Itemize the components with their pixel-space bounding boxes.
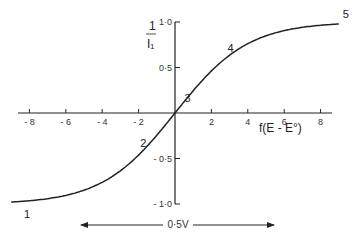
point-label-4: 4: [228, 42, 234, 54]
point-label-5: 5: [343, 8, 349, 20]
x-tick-label: 4: [245, 117, 250, 127]
y-axis-label-denominator: I₁: [147, 37, 154, 51]
y-tick-label: - 0·5: [153, 154, 172, 164]
x-tick-label: - 2: [133, 117, 144, 127]
y-tick-label: 0·5: [159, 63, 172, 73]
x-tick-label: - 4: [97, 117, 108, 127]
voltage-span-label: 0·5V: [167, 219, 188, 230]
x-tick-label: - 8: [24, 117, 35, 127]
x-tick-label: 2: [209, 117, 214, 127]
y-axis-label-numerator: 1: [149, 19, 156, 33]
point-label-1: 1: [24, 208, 30, 220]
point-labels: 12345: [24, 8, 349, 220]
y-tick-label: 1·0: [159, 17, 172, 27]
x-tick-label: 8: [318, 117, 323, 127]
arrow-head-left-icon: [80, 222, 88, 228]
voltage-span-annotation: 0·5V: [80, 219, 275, 230]
y-tick-label: - 1·0: [153, 199, 172, 209]
x-axis-label: f(E - E°): [259, 121, 302, 135]
arrow-head-right-icon: [267, 222, 275, 228]
point-label-2: 2: [140, 137, 146, 149]
chart: - 8- 6- 4- 22468 1·00·5- 0·5- 1·0 12345 …: [0, 0, 357, 239]
point-label-3: 3: [184, 92, 190, 104]
x-tick-label: - 6: [61, 117, 72, 127]
